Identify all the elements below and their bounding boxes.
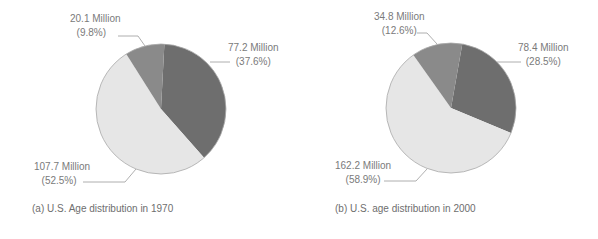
pie-2000 [386, 43, 516, 173]
slice-label-medium-1970: 20.1 Million (9.8%) [70, 12, 121, 40]
slice-label-medium-2000: 34.8 Million (12.6%) [374, 10, 425, 38]
slice-label-dark-1970: 77.2 Million (37.6%) [228, 41, 279, 69]
pie-figure-1970: 20.1 Million (9.8%) 77.2 Million (37.6%)… [0, 0, 299, 239]
caption-2000: (b) U.S. age distribution in 2000 [335, 203, 476, 214]
pie-1970 [96, 44, 226, 174]
pie-figure-2000: 34.8 Million (12.6%) 78.4 Million (28.5%… [299, 0, 598, 239]
caption-1970: (a) U.S. Age distribution in 1970 [32, 203, 173, 214]
slice-label-dark-2000: 78.4 Million (28.5%) [518, 41, 569, 69]
slice-label-light-2000: 162.2 Million (58.9%) [335, 159, 391, 187]
slice-label-light-1970: 107.7 Million (52.5%) [34, 160, 90, 188]
